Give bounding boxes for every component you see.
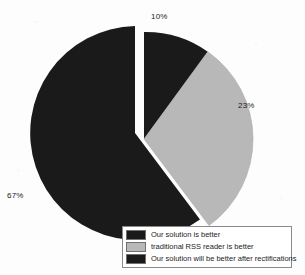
legend-swatch-icon (126, 254, 146, 264)
pie-chart: 10% 23% 67% Our solution is better tradi… (0, 0, 305, 275)
legend-item: Our solution is better (126, 229, 288, 240)
legend-item: traditional RSS reader is better (126, 241, 288, 252)
legend-item-label: Our solution will be better after rectif… (151, 254, 296, 263)
legend-item-label: Our solution is better (151, 230, 220, 239)
chart-legend: Our solution is better traditional RSS r… (122, 226, 292, 268)
pie-label-23-percent: 23% (238, 101, 255, 110)
legend-item-label: traditional RSS reader is better (151, 242, 254, 251)
legend-swatch-icon (126, 230, 146, 240)
pie-label-10-percent: 10% (151, 12, 168, 21)
pie-label-67-percent: 67% (7, 191, 24, 200)
legend-swatch-icon (126, 242, 146, 252)
legend-item: Our solution will be better after rectif… (126, 253, 288, 264)
